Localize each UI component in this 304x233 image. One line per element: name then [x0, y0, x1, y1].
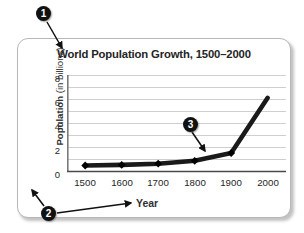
- y-tick-label-8: 8: [44, 73, 60, 84]
- y-tick-label-2: 2: [44, 145, 60, 156]
- x-tick-label-1600: 1600: [102, 177, 142, 188]
- x-tick-label-1700: 1700: [138, 177, 178, 188]
- callout-badge-1[interactable]: 1: [36, 6, 51, 21]
- y-tick-label-0: 0: [44, 169, 60, 180]
- x-tick-label-1500: 1500: [65, 177, 105, 188]
- x-tick-label-1900: 1900: [211, 177, 251, 188]
- x-axis-title: Year: [136, 197, 158, 209]
- line-chart-svg: [67, 75, 286, 173]
- data-series-line: [85, 98, 268, 166]
- y-axis-title-rest: (in billions): [54, 47, 65, 96]
- figure-panel: World Population Growth, 1500–2000 Popul…: [17, 38, 291, 218]
- y-tick-label-4: 4: [44, 121, 60, 132]
- callout-badge-3[interactable]: 3: [183, 117, 198, 132]
- plot-area: [67, 75, 286, 173]
- x-tick-label-1800: 1800: [175, 177, 215, 188]
- y-tick-label-6: 6: [44, 97, 60, 108]
- x-tick-label-2000: 2000: [248, 177, 288, 188]
- callout-badge-2[interactable]: 2: [41, 206, 56, 221]
